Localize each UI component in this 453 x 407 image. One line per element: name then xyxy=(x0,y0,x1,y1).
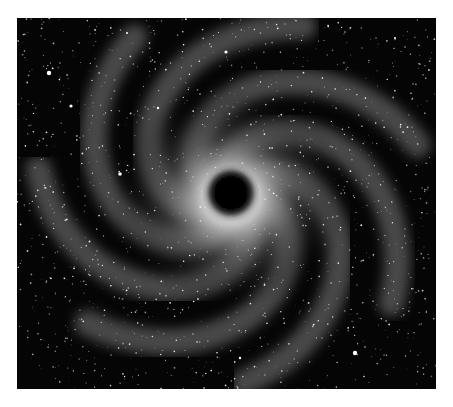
bright-star xyxy=(47,71,51,75)
bright-star xyxy=(394,37,396,39)
bright-star xyxy=(353,351,357,355)
bright-star xyxy=(126,32,128,34)
bright-star xyxy=(239,357,241,359)
black-hole-core xyxy=(208,170,254,216)
bright-star xyxy=(224,50,227,53)
galaxy-illustration xyxy=(17,18,436,389)
galaxy-image xyxy=(17,18,436,389)
bright-star xyxy=(118,172,122,176)
bright-star xyxy=(69,104,72,107)
bright-star xyxy=(157,107,159,109)
